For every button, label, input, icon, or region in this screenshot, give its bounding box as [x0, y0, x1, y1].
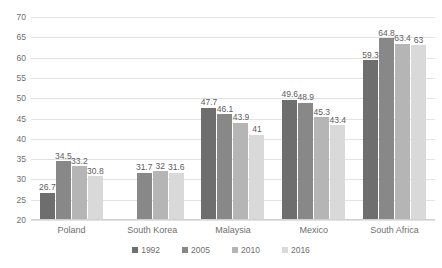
legend-swatch-icon [232, 247, 238, 253]
bar-slot: 26.7 [40, 17, 55, 220]
bar-slot: 48.9 [298, 17, 313, 220]
x-axis-label: Malaysia [193, 221, 274, 239]
bar-value-label: 49.6 [282, 90, 299, 99]
legend-item[interactable]: 2005 [182, 246, 210, 255]
legend-item[interactable]: 2010 [232, 246, 260, 255]
bar-value-label: 34.5 [55, 152, 72, 161]
bar-value-label: 63.4 [394, 34, 411, 43]
bar-value-label: 30.8 [87, 167, 104, 176]
bar[interactable]: 64.8 [379, 38, 394, 220]
legend-label: 2010 [241, 246, 260, 255]
bar[interactable]: 48.9 [298, 103, 313, 220]
bar[interactable]: 43.4 [330, 125, 345, 220]
y-axis-tick-label: 30 [17, 175, 26, 184]
bar-slot: 64.8 [379, 17, 394, 220]
bar-group: 26.734.533.230.8 [31, 17, 112, 220]
y-axis-tick-label: 65 [17, 33, 26, 42]
bar[interactable]: 46.1 [217, 114, 232, 220]
bar-value-label: 33.2 [71, 157, 88, 166]
bar-slot: 43.4 [330, 17, 345, 220]
bar-slot: 34.5 [56, 17, 71, 220]
bar[interactable]: 63 [411, 45, 426, 220]
legend-label: 1992 [141, 246, 160, 255]
bar-value-label: 31.7 [136, 163, 153, 172]
bar-group: 47.746.143.941 [193, 17, 274, 220]
bar-slot [121, 17, 136, 220]
bar[interactable]: 47.7 [201, 108, 216, 220]
y-axis-tick-label: 40 [17, 135, 26, 144]
bar[interactable]: 49.6 [282, 100, 297, 220]
bar-value-label: 43.4 [330, 116, 347, 125]
bar-group: 31.73231.6 [112, 17, 193, 220]
bar-value-label: 43.9 [233, 113, 250, 122]
x-axis-label: South Africa [354, 221, 435, 239]
bar-slot: 30.8 [88, 17, 103, 220]
bar[interactable]: 41 [249, 135, 264, 220]
bar-slot: 49.6 [282, 17, 297, 220]
bar-slot: 59.3 [363, 17, 378, 220]
y-axis-tick-label: 20 [17, 216, 26, 225]
bar[interactable]: 32 [153, 171, 168, 220]
legend-swatch-icon [182, 247, 188, 253]
bar-value-label: 64.8 [378, 29, 395, 38]
bar-value-label: 48.9 [298, 93, 315, 102]
bar-group: 59.364.863.463 [354, 17, 435, 220]
y-axis-tick-label: 50 [17, 94, 26, 103]
legend-label: 2005 [191, 246, 210, 255]
bar[interactable]: 30.8 [88, 176, 103, 220]
bar[interactable]: 34.5 [56, 161, 71, 220]
bar-slot: 45.3 [314, 17, 329, 220]
bar-value-label: 63 [414, 36, 423, 45]
legend-swatch-icon [282, 247, 288, 253]
x-axis-label: South Korea [112, 221, 193, 239]
bar-slot: 41 [249, 17, 264, 220]
bar[interactable]: 63.4 [395, 44, 410, 220]
bar-group: 49.648.945.343.4 [273, 17, 354, 220]
bar-value-label: 26.7 [39, 183, 56, 192]
y-axis: 7065605550454035302520 [0, 17, 31, 220]
bar-value-label: 59.3 [362, 51, 379, 60]
y-axis-tick-label: 45 [17, 114, 26, 123]
y-axis-tick-label: 60 [17, 53, 26, 62]
bar[interactable]: 45.3 [314, 117, 329, 220]
bar[interactable]: 26.7 [40, 193, 55, 220]
x-axis-category-labels: PolandSouth KoreaMalaysiaMexicoSouth Afr… [31, 221, 435, 239]
bar[interactable]: 59.3 [363, 60, 378, 220]
chart-legend: 1992200520102016 [0, 246, 442, 255]
x-axis-label: Poland [31, 221, 112, 239]
bar-slot: 63 [411, 17, 426, 220]
bar-value-label: 46.1 [217, 105, 234, 114]
y-axis-tick-label: 25 [17, 195, 26, 204]
bar-slot: 31.6 [169, 17, 184, 220]
y-axis-tick-label: 35 [17, 155, 26, 164]
bar[interactable]: 31.7 [137, 173, 152, 221]
legend-label: 2016 [291, 246, 310, 255]
bar-value-label: 41 [252, 125, 261, 134]
bar-chart: 7065605550454035302520 26.734.533.230.83… [0, 0, 442, 268]
bar-value-label: 47.7 [201, 98, 218, 107]
bar-groups: 26.734.533.230.831.73231.647.746.143.941… [31, 17, 435, 220]
bar[interactable]: 43.9 [233, 123, 248, 220]
bar-slot: 32 [153, 17, 168, 220]
bar-slot: 43.9 [233, 17, 248, 220]
bar-slot: 31.7 [137, 17, 152, 220]
y-axis-tick-label: 70 [17, 13, 26, 22]
y-axis-tick-label: 55 [17, 74, 26, 83]
bar-slot: 33.2 [72, 17, 87, 220]
bar-value-label: 32 [155, 162, 164, 171]
plot-area: 26.734.533.230.831.73231.647.746.143.941… [31, 17, 435, 220]
x-axis-line [31, 219, 435, 220]
bar-value-label: 31.6 [168, 163, 185, 172]
x-axis-label: Mexico [273, 221, 354, 239]
bar[interactable]: 33.2 [72, 166, 87, 220]
bar-slot: 63.4 [395, 17, 410, 220]
bar-value-label: 45.3 [314, 108, 331, 117]
legend-item[interactable]: 1992 [132, 246, 160, 255]
bar[interactable]: 31.6 [169, 173, 184, 220]
legend-swatch-icon [132, 247, 138, 253]
legend-item[interactable]: 2016 [282, 246, 310, 255]
bar-slot: 46.1 [217, 17, 232, 220]
bar-slot: 47.7 [201, 17, 216, 220]
